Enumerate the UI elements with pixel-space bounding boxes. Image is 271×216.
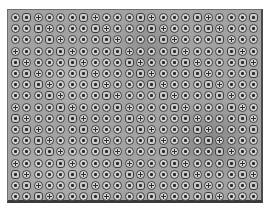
fixture-center-icon [252,162,255,165]
fixture-cell [11,114,20,123]
fixture-cell [249,69,258,78]
fixture-center-icon [173,173,176,176]
fixture-center-icon [59,139,62,142]
fixture-center-icon [252,83,255,86]
fixture-center-icon [128,94,131,97]
fixture-cell [147,136,156,145]
fixture-center-icon [128,195,131,198]
fixture-cell [215,170,224,179]
fixture-center-icon [25,16,28,19]
fixture-cell [34,80,43,89]
fixture-cell [68,125,77,134]
fixture-cell [125,35,134,44]
fixture-center-icon [13,107,18,108]
fixture-center-icon [25,50,28,53]
fixture-cell [22,13,31,22]
fixture-center-icon [25,139,28,142]
fixture-center-icon [128,83,131,86]
fixture-center-icon [150,27,153,30]
fixture-center-icon [128,72,131,75]
fixture-center-icon [139,184,142,187]
fixture-center-icon [47,140,52,141]
fixture-center-icon [47,84,52,85]
fixture-center-icon [162,50,165,53]
fixture-center-icon [230,139,233,142]
fixture-center-icon [241,128,244,131]
fixture-center-icon [162,38,165,41]
fixture-center-icon [25,83,28,86]
fixture-center-icon [59,162,62,165]
fixture-center-icon [173,195,176,198]
fixture-cell [56,13,65,22]
fixture-center-icon [139,195,142,198]
fixture-center-icon [37,150,40,153]
fixture-cell [204,192,213,201]
fixture-cell [181,35,190,44]
fixture-cell [79,125,88,134]
fixture-center-icon [150,139,153,142]
fixture-center-icon [14,72,17,75]
fixture-center-icon [240,51,245,52]
fixture-cell [227,192,236,201]
fixture-cell [91,147,100,156]
fixture-center-icon [241,117,244,120]
fixture-center-icon [150,162,153,165]
fixture-center-icon [218,61,221,64]
fixture-cell [249,13,258,22]
fixture-cell [113,24,122,33]
fixture-cell [68,13,77,22]
fixture-center-icon [59,128,62,131]
fixture-center-icon [37,38,40,41]
fixture-cell [22,91,31,100]
fixture-center-icon [71,27,74,30]
fixture-cell [193,159,202,168]
fixture-cell [125,80,134,89]
fixture-cell [238,47,247,56]
fixture-cell [147,58,156,67]
fixture-cell [125,13,134,22]
fixture-cell [238,58,247,67]
fixture-cell [91,91,100,100]
fixture-cell [102,159,111,168]
fixture-cell [147,103,156,112]
fixture-center-icon [94,117,97,120]
fixture-center-icon [162,184,165,187]
fixture-center-icon [196,16,199,19]
fixture-cell [238,181,247,190]
fixture-cell [68,47,77,56]
fixture-cell [238,170,247,179]
fixture-center-icon [24,62,29,63]
fixture-cell [68,103,77,112]
fixture-cell [34,170,43,179]
fixture-cell [79,192,88,201]
fixture-center-icon [196,184,199,187]
fixture-center-icon [104,28,109,29]
fixture-cell [56,181,65,190]
fixture-cell [22,24,31,33]
fixture-cell [204,136,213,145]
fixture-center-icon [116,184,119,187]
fixture-center-icon [196,72,199,75]
fixture-cell [147,125,156,134]
fixture-cell [34,125,43,134]
fixture-cell [22,58,31,67]
fixture-cell [56,47,65,56]
fixture-center-icon [206,129,211,130]
fixture-center-icon [48,162,51,165]
fixture-center-icon [196,106,199,109]
fixture-center-icon [252,72,255,75]
fixture-center-icon [229,151,234,152]
fixture-cell [11,69,20,78]
fixture-cell [136,13,145,22]
fixture-cell [136,192,145,201]
fixture-center-icon [116,27,119,30]
fixture-center-icon [207,162,210,165]
fixture-cell [193,192,202,201]
fixture-cell [34,13,43,22]
fixture-cell [113,114,122,123]
fixture-cell [56,35,65,44]
fixture-cell [227,58,236,67]
fixture-cell [215,192,224,201]
fixture-center-icon [241,94,244,97]
fixture-cell [11,103,20,112]
